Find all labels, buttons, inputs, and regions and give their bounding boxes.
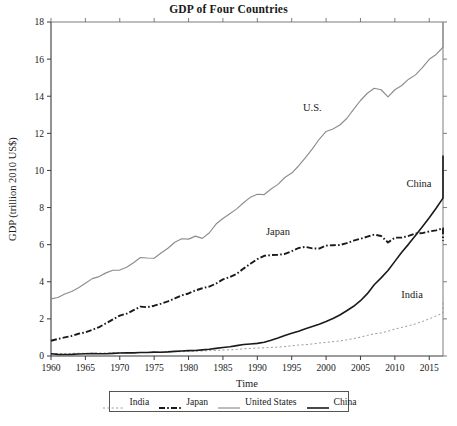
x-tick-label: 1980 xyxy=(179,362,198,373)
legend-swatch-solid-dark xyxy=(306,398,330,406)
y-tick-label: 2 xyxy=(39,313,44,324)
series-line-united-states xyxy=(51,22,443,299)
gdp-line-chart: GDP of Four Countries 024681012141618196… xyxy=(0,0,457,426)
y-tick-label: 6 xyxy=(39,239,44,250)
x-tick-label: 1990 xyxy=(248,362,267,373)
legend-swatch-dash-dot xyxy=(158,398,182,406)
x-tick-label: 2015 xyxy=(420,362,439,373)
x-tick-label: 2010 xyxy=(385,362,404,373)
y-tick-label: 12 xyxy=(34,128,44,139)
series-line-china xyxy=(51,156,443,355)
y-tick-label: 18 xyxy=(34,16,44,27)
x-axis-title: Time xyxy=(236,378,258,389)
x-tick-label: 1960 xyxy=(41,362,60,373)
x-tick-label: 1975 xyxy=(145,362,164,373)
legend-item-india: India xyxy=(102,396,150,407)
annotation-japan: Japan xyxy=(266,226,291,237)
y-tick-label: 0 xyxy=(39,350,44,361)
x-tick-label: 1995 xyxy=(282,362,301,373)
legend-swatch-dotted xyxy=(102,398,126,406)
legend-label: India xyxy=(130,396,150,407)
ticks-group xyxy=(47,18,447,360)
legend-item-china: China xyxy=(306,396,357,407)
y-tick-label: 16 xyxy=(34,54,44,65)
annotation-u-s-: U.S. xyxy=(303,102,322,113)
axes-group xyxy=(51,22,443,356)
y-tick-label: 8 xyxy=(39,202,44,213)
legend-item-japan: Japan xyxy=(158,396,208,407)
y-axis-title: GDP (trillion 2010 US$) xyxy=(7,137,19,241)
x-tick-label: 2000 xyxy=(316,362,335,373)
legend-label: China xyxy=(334,396,357,407)
legend-swatch-solid-light xyxy=(217,398,241,406)
y-tick-label: 4 xyxy=(39,276,44,287)
legend-label: United States xyxy=(245,396,296,407)
x-tick-label: 2005 xyxy=(351,362,370,373)
x-tick-label: 1985 xyxy=(213,362,232,373)
series-line-india xyxy=(51,302,443,354)
legend-item-united-states: United States xyxy=(217,396,296,407)
y-tick-label: 14 xyxy=(34,91,44,102)
plot-canvas: 0246810121416181960196519701975198019851… xyxy=(0,0,457,426)
chart-legend: IndiaJapanUnited StatesChina xyxy=(109,391,349,412)
annotation-india: India xyxy=(401,289,423,300)
series-line-japan xyxy=(51,228,443,340)
x-tick-label: 1965 xyxy=(76,362,95,373)
data-series-group xyxy=(51,22,443,355)
tick-labels-group: 0246810121416181960196519701975198019851… xyxy=(34,16,439,373)
legend-label: Japan xyxy=(186,396,208,407)
x-tick-label: 1970 xyxy=(110,362,129,373)
annotation-china: China xyxy=(406,178,431,189)
series-annotations-group: U.S.ChinaJapanIndia xyxy=(266,102,432,299)
y-tick-label: 10 xyxy=(34,165,44,176)
